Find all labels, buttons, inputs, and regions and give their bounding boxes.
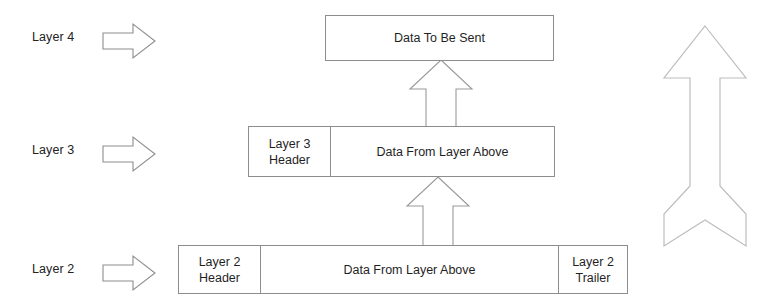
layer-label-layer3: Layer 3 xyxy=(32,144,74,157)
up-arrow-layer2-to-layer3 xyxy=(406,176,470,248)
layer-label-layer4: Layer 4 xyxy=(32,31,74,44)
right-arrow-icon-layer4 xyxy=(102,23,156,59)
right-arrow-icon-layer3 xyxy=(102,136,156,172)
pdu-box-layer2: Layer 2 Header Data From Layer Above Lay… xyxy=(178,245,628,294)
pdu-cell-layer2-data: Data From Layer Above xyxy=(261,246,558,293)
pdu-cell-layer3-data: Data From Layer Above xyxy=(331,127,554,176)
pdu-box-layer4: Data To Be Sent xyxy=(325,15,554,61)
encapsulation-diagram: Layer 4 Layer 3 Layer 2 Data To Be Sent xyxy=(0,0,758,306)
up-arrow-layer3-to-layer4 xyxy=(409,59,473,129)
pdu-box-layer3: Layer 3 Header Data From Layer Above xyxy=(248,126,555,177)
pdu-cell-layer2-header: Layer 2 Header xyxy=(179,246,261,293)
pdu-cell-layer2-trailer: Layer 2 Trailer xyxy=(558,246,627,293)
pdu-cell-layer3-header: Layer 3 Header xyxy=(249,127,331,176)
pdu-cell-data-to-be-sent: Data To Be Sent xyxy=(326,16,553,60)
large-up-arrow-icon xyxy=(662,24,748,248)
right-arrow-icon-layer2 xyxy=(102,255,156,291)
layer-label-layer2: Layer 2 xyxy=(32,263,74,276)
